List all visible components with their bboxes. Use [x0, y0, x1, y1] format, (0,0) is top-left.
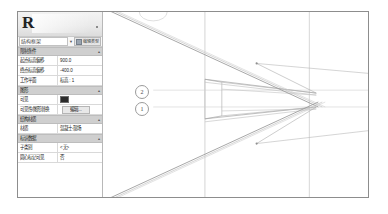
property-value-field[interactable]: 900.0	[58, 56, 102, 65]
palette-pin-icon[interactable]	[96, 26, 98, 28]
section-header-identity-label: 标识数据	[20, 134, 36, 142]
property-value-field[interactable]: -400.0	[58, 66, 102, 75]
property-value-field[interactable]: 否	[58, 153, 102, 162]
property-row-sub-category[interactable]: 子类别 <无>	[18, 143, 102, 153]
node-point-lower	[256, 142, 258, 144]
property-row-end-level-offset[interactable]: 终点标高偏移 -400.0	[18, 66, 102, 76]
property-key: 工作平面	[18, 76, 58, 85]
type-selector-value: 结构框架	[21, 37, 41, 45]
edit-type-label: 编辑类型	[83, 39, 99, 45]
property-row-color-override[interactable]: 可见	[18, 95, 102, 105]
property-key-label: 起点标高偏移	[20, 56, 44, 65]
property-key: 起点标高偏移	[18, 56, 58, 65]
diagonal-member-ascending	[104, 102, 326, 197]
revit-logo-icon: R	[22, 13, 33, 33]
screenshot-root: 2 1 R 结构框架 ▼ 编辑类型 限制条件 ▴	[0, 0, 388, 214]
type-selector-combobox[interactable]: 结构框架	[19, 37, 68, 46]
chevron-up-icon[interactable]: ▴	[98, 135, 100, 142]
property-key-label: 工作平面	[20, 76, 36, 85]
property-value-label: <无>	[60, 143, 69, 152]
property-value-field[interactable]: <无>	[58, 143, 102, 152]
property-row-material[interactable]: 材质 混凝土-现场	[18, 124, 102, 134]
property-key-label: 可见	[20, 95, 28, 104]
grid-bubble-lower-label: 1	[141, 106, 144, 112]
brace-fan-lower	[205, 107, 368, 144]
type-selector-row[interactable]: 结构框架 ▼ 编辑类型	[18, 37, 102, 47]
edit-type-button[interactable]: 编辑类型	[74, 37, 101, 46]
property-row-center-mark[interactable]: 圆心标记可见 否	[18, 153, 102, 163]
section-header-constraints[interactable]: 限制条件 ▴	[18, 47, 102, 56]
grid-bubble-lower[interactable]: 1	[135, 102, 149, 116]
grid-bubble-upper-label: 2	[141, 89, 144, 95]
section-header-graphics-label: 图形	[20, 86, 28, 94]
section-header-structure[interactable]: 结构材质 ▴	[18, 115, 102, 124]
palette-logo-band: R	[18, 12, 102, 37]
chevron-up-icon[interactable]: ▴	[98, 48, 100, 55]
property-row-start-level-offset[interactable]: 起点标高偏移 900.0	[18, 56, 102, 66]
arc-annotation	[139, 12, 167, 21]
edit-visibility-button[interactable]: 编辑...	[62, 106, 90, 114]
property-key: 材质	[18, 124, 58, 133]
property-key: 可见	[18, 95, 58, 104]
edit-visibility-label: 编辑...	[70, 105, 82, 114]
property-key: 可见性/图形替换	[18, 105, 58, 114]
properties-palette[interactable]: R 结构框架 ▼ 编辑类型 限制条件 ▴ 起点标高偏移 900.0 终点标高偏移…	[18, 12, 103, 197]
property-value-field[interactable]	[58, 95, 102, 104]
property-value-label: -400.0	[60, 66, 73, 75]
property-key: 子类别	[18, 143, 58, 152]
section-header-structure-label: 结构材质	[20, 115, 36, 123]
property-value-field[interactable]: 混凝土-现场	[58, 124, 102, 133]
member-section-outline	[205, 79, 222, 119]
property-value-label: 标高 : 1	[60, 76, 74, 85]
property-value-field[interactable]: 编辑...	[58, 105, 102, 114]
node-point-upper	[256, 62, 258, 64]
property-row-work-plane[interactable]: 工作平面 标高 : 1	[18, 76, 102, 86]
property-row-visibility-graphics[interactable]: 可见性/图形替换 编辑...	[18, 105, 102, 115]
property-key-label: 材质	[20, 124, 28, 133]
property-key-label: 子类别	[20, 143, 32, 152]
property-value-field[interactable]: 标高 : 1	[58, 76, 102, 85]
property-key-label: 圆心标记可见	[20, 153, 44, 162]
property-key-label: 可见性/图形替换	[20, 105, 49, 114]
property-value-label: 混凝土-现场	[60, 124, 82, 133]
grid-bubble-upper[interactable]: 2	[135, 85, 149, 99]
chevron-up-icon[interactable]: ▴	[98, 116, 100, 123]
property-key: 终点标高偏移	[18, 66, 58, 75]
section-header-constraints-label: 限制条件	[20, 47, 36, 55]
section-header-graphics[interactable]: 图形 ▴	[18, 86, 102, 95]
property-value-label: 否	[60, 153, 64, 162]
property-key-label: 终点标高偏移	[20, 66, 44, 75]
section-header-identity[interactable]: 标识数据 ▴	[18, 134, 102, 143]
property-key: 圆心标记可见	[18, 153, 58, 162]
property-value-label: 900.0	[60, 56, 71, 65]
logo-sheen	[32, 14, 90, 33]
color-swatch[interactable]	[60, 96, 69, 103]
edit-type-icon	[76, 39, 82, 45]
chevron-up-icon[interactable]: ▴	[98, 87, 100, 94]
